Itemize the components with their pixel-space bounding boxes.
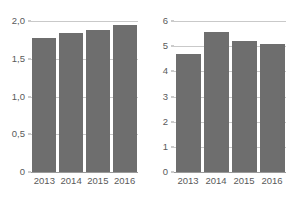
right-bar-2013[interactable] <box>176 54 201 172</box>
left-xaxis-labels: 2013 2014 2015 2016 <box>31 176 138 186</box>
left-bar-2016[interactable] <box>113 25 137 172</box>
right-plot-area: 6 5 4 3 2 1 0 <box>174 21 286 172</box>
left-xtick-label-2013: 2013 <box>31 176 58 186</box>
right-bar-slot-2014 <box>202 21 230 172</box>
right-ytick-label-4: 4 <box>163 67 174 77</box>
right-xaxis-labels: 2013 2014 2015 2016 <box>174 176 286 186</box>
left-bar-2015[interactable] <box>86 30 110 172</box>
left-ytick-label-0-5: 0,5 <box>12 130 31 140</box>
right-ytick-label-2: 2 <box>163 117 174 127</box>
right-xtick-label-2015: 2015 <box>230 176 258 186</box>
right-bar-2016[interactable] <box>260 44 285 172</box>
right-xtick-label-2016: 2016 <box>258 176 286 186</box>
left-plot-area: 2,0 1,5 1,0 0,5 0 <box>31 21 138 172</box>
right-bar-2015[interactable] <box>232 41 257 172</box>
left-bar-slot-2014 <box>58 21 85 172</box>
right-axis-baseline <box>174 172 286 173</box>
right-bar-2014[interactable] <box>204 32 229 172</box>
left-xtick-label-2015: 2015 <box>85 176 112 186</box>
right-bar-slot-2016 <box>258 21 286 172</box>
right-bars-group <box>174 21 286 172</box>
right-bar-slot-2015 <box>230 21 258 172</box>
left-ytick-label-0: 0 <box>20 167 31 177</box>
left-bars-group <box>31 21 138 172</box>
left-bar-chart-panel: 2,0 1,5 1,0 0,5 0 2013 <box>0 0 148 207</box>
right-xtick-label-2014: 2014 <box>202 176 230 186</box>
right-bar-chart-panel: 6 5 4 3 2 1 0 2 <box>148 0 297 207</box>
right-ytick-label-5: 5 <box>163 41 174 51</box>
right-ytick-label-0: 0 <box>163 167 174 177</box>
left-axis-baseline <box>31 172 138 173</box>
left-ytick-label-1-5: 1,5 <box>12 54 31 64</box>
right-xtick-label-2013: 2013 <box>174 176 202 186</box>
left-ytick-label-2-0: 2,0 <box>12 16 31 26</box>
right-ytick-label-1: 1 <box>163 142 174 152</box>
dual-bar-chart-figure: 2,0 1,5 1,0 0,5 0 2013 <box>0 0 297 207</box>
left-bar-2014[interactable] <box>59 33 83 172</box>
left-xtick-label-2014: 2014 <box>58 176 85 186</box>
right-ytick-label-6: 6 <box>163 16 174 26</box>
left-bar-2013[interactable] <box>32 38 56 172</box>
right-ytick-label-3: 3 <box>163 92 174 102</box>
left-xtick-label-2016: 2016 <box>111 176 138 186</box>
left-ytick-label-1-0: 1,0 <box>12 92 31 102</box>
right-bar-slot-2013 <box>174 21 202 172</box>
left-bar-slot-2015 <box>85 21 112 172</box>
left-bar-slot-2016 <box>111 21 138 172</box>
left-bar-slot-2013 <box>31 21 58 172</box>
